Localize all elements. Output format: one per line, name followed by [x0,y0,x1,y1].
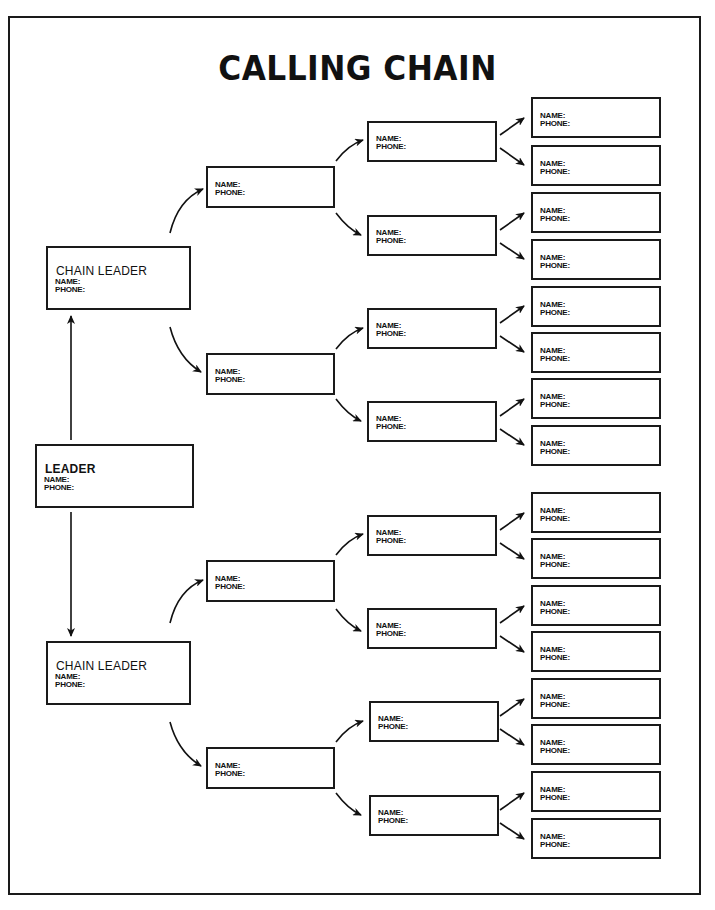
phone-label: PHONE: [215,770,245,778]
caller-box-l1-3[interactable]: NAME: PHONE: [206,560,335,602]
phone-label: PHONE: [378,723,408,731]
caller-box-l3-1[interactable]: NAME: PHONE: [531,97,661,138]
caller-box-l2-3[interactable]: NAME: PHONE: [367,308,497,349]
caller-box-l2-4[interactable]: NAME: PHONE: [367,401,497,442]
chain-leader-role-label: CHAIN LEADER [56,660,147,672]
caller-box-l3-14[interactable]: NAME: PHONE: [531,724,661,765]
phone-label: PHONE: [215,376,245,384]
caller-box-l3-10[interactable]: NAME: PHONE: [531,538,661,579]
phone-label: PHONE: [540,215,570,223]
chain-leader-box-1[interactable]: CHAIN LEADER NAME: PHONE: [46,246,191,310]
phone-label: PHONE: [540,355,570,363]
caller-box-l3-12[interactable]: NAME: PHONE: [531,631,661,672]
caller-box-l3-11[interactable]: NAME: PHONE: [531,585,661,626]
caller-box-l3-6[interactable]: NAME: PHONE: [531,332,661,373]
leader-box[interactable]: LEADER NAME: PHONE: [35,444,194,508]
phone-label: PHONE: [540,841,570,849]
phone-label: PHONE: [540,608,570,616]
phone-label: PHONE: [540,448,570,456]
phone-label: PHONE: [540,168,570,176]
caller-box-l3-7[interactable]: NAME: PHONE: [531,378,661,419]
caller-box-l3-8[interactable]: NAME: PHONE: [531,425,661,466]
phone-label: PHONE: [215,189,245,197]
phone-label: PHONE: [376,143,406,151]
caller-box-l3-15[interactable]: NAME: PHONE: [531,771,661,812]
phone-label: PHONE: [540,701,570,709]
phone-label: PHONE: [540,120,570,128]
caller-box-l3-3[interactable]: NAME: PHONE: [531,192,661,233]
phone-label: PHONE: [540,794,570,802]
caller-box-l3-2[interactable]: NAME: PHONE: [531,145,661,186]
caller-box-l3-9[interactable]: NAME: PHONE: [531,492,661,533]
caller-box-l3-16[interactable]: NAME: PHONE: [531,818,661,859]
caller-box-l3-13[interactable]: NAME: PHONE: [531,678,661,719]
phone-label: PHONE: [215,583,245,591]
phone-label: PHONE: [376,330,406,338]
caller-box-l3-4[interactable]: NAME: PHONE: [531,239,661,280]
caller-box-l1-2[interactable]: NAME: PHONE: [206,353,335,395]
caller-box-l2-5[interactable]: NAME: PHONE: [367,515,497,556]
phone-label: PHONE: [540,262,570,270]
phone-label: PHONE: [540,515,570,523]
leader-role-label: LEADER [45,463,96,475]
phone-label: PHONE: [540,561,570,569]
phone-label: PHONE: [540,654,570,662]
phone-label: PHONE: [540,401,570,409]
chain-leader-role-label: CHAIN LEADER [56,265,147,277]
phone-label: PHONE: [55,286,85,294]
caller-box-l3-5[interactable]: NAME: PHONE: [531,286,661,327]
phone-label: PHONE: [378,817,408,825]
phone-label: PHONE: [540,747,570,755]
phone-label: PHONE: [376,423,406,431]
caller-box-l2-8[interactable]: NAME: PHONE: [369,795,499,836]
phone-label: PHONE: [376,537,406,545]
caller-box-l2-2[interactable]: NAME: PHONE: [367,215,497,256]
phone-label: PHONE: [376,237,406,245]
phone-label: PHONE: [540,309,570,317]
phone-label: PHONE: [55,681,85,689]
caller-box-l2-6[interactable]: NAME: PHONE: [367,608,497,649]
phone-label: PHONE: [44,484,74,492]
caller-box-l1-1[interactable]: NAME: PHONE: [206,166,335,208]
chain-leader-box-2[interactable]: CHAIN LEADER NAME: PHONE: [46,641,191,705]
caller-box-l2-1[interactable]: NAME: PHONE: [367,121,497,162]
phone-label: PHONE: [376,630,406,638]
caller-box-l2-7[interactable]: NAME: PHONE: [369,701,499,742]
caller-box-l1-4[interactable]: NAME: PHONE: [206,747,335,789]
